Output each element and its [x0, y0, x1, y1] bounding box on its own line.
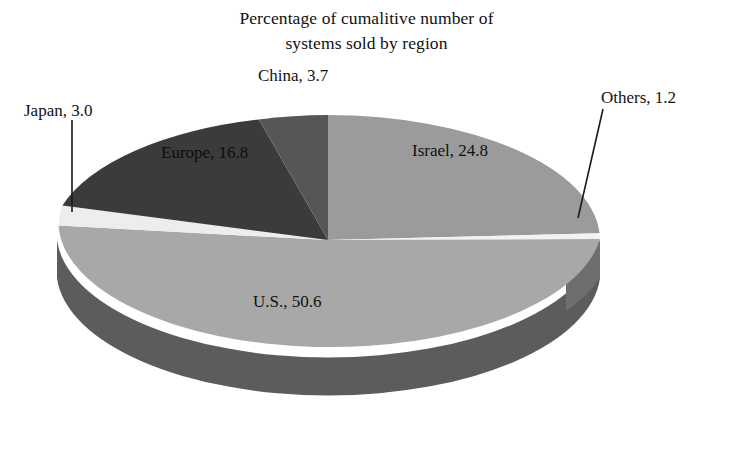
- slice-label-china: China, 3.7: [258, 66, 328, 86]
- slice-label-europe: Europe, 16.8: [161, 143, 248, 163]
- pie-chart-figure: Percentage of cumalitive number of syste…: [0, 0, 733, 451]
- pie-graphic: [0, 0, 733, 451]
- slice-label-israel: Israel, 24.8: [412, 141, 488, 161]
- pie-top-face: [59, 115, 600, 347]
- leader-line-others: [578, 109, 603, 218]
- slice-label-others: Others, 1.2: [601, 88, 676, 108]
- slice-label-japan: Japan, 3.0: [24, 101, 92, 121]
- slice-label-us: U.S., 50.6: [253, 292, 321, 312]
- pie-slice-israel[interactable]: [328, 115, 600, 240]
